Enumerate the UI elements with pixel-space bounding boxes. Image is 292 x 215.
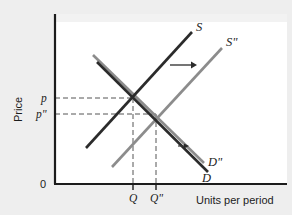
y-tick-label-price-new: p": [35, 108, 47, 121]
curve-label-supply-initial: S: [196, 20, 203, 34]
x-axis-title: Units per period: [196, 194, 274, 206]
supply-shift-diagram: Price Units per period 0 p p" Q Q" S S" …: [0, 0, 292, 215]
x-tick-label-quantity-new: Q": [150, 192, 163, 204]
origin-label: 0: [40, 178, 46, 190]
curve-label-supply-shifted: S": [226, 35, 238, 49]
y-tick-label-price-initial: p: [40, 92, 47, 105]
curve-label-demand-initial: D: [201, 171, 211, 185]
y-axis-title: Price: [12, 97, 24, 122]
plot-background-shade: [55, 14, 287, 22]
curve-label-demand-secondary: D": [207, 155, 223, 169]
plot-background: [55, 14, 287, 184]
x-tick-label-quantity-initial: Q: [129, 192, 138, 204]
